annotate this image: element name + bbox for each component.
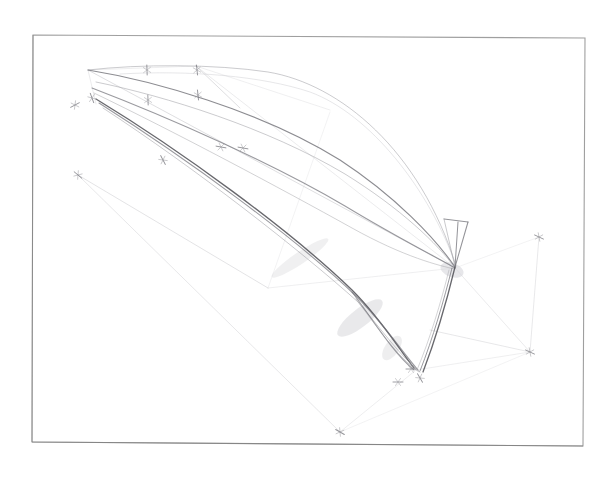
sketch-page: Boat hull perspective construction sketc… bbox=[0, 0, 602, 479]
paper-background bbox=[0, 0, 602, 479]
sketch-canvas bbox=[0, 0, 602, 479]
